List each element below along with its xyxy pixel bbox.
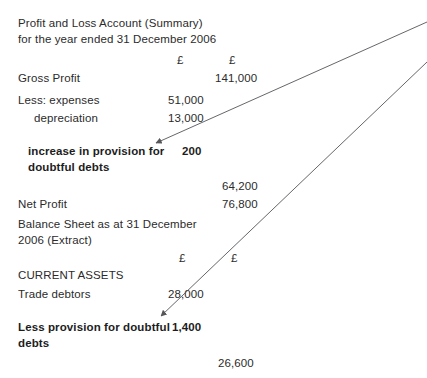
bs-row-value-net-debtors-col2: 26,600	[218, 357, 254, 370]
bs-row-label-trade-debtors: Trade debtors	[18, 288, 91, 301]
pl-title-line-1: Profit and Loss Account (Summary)	[18, 17, 203, 30]
worksheet-page: Profit and Loss Account (Summary) for th…	[0, 0, 427, 378]
pl-row-label-depreciation: depreciation	[34, 112, 98, 125]
pl-row-label-doubtful-debts: doubtful debts	[28, 161, 109, 174]
pl-row-value-depreciation-col1: 13,000	[168, 112, 204, 125]
bs-section-heading-current-assets: CURRENT ASSETS	[18, 269, 124, 282]
bs-row-value-trade-debtors-col1: 28,000	[168, 288, 204, 301]
bs-currency-header-col1: £	[179, 252, 186, 265]
bs-title-line-1: Balance Sheet as at 31 December	[18, 218, 197, 231]
pl-currency-header-col2: £	[229, 54, 236, 67]
bs-title-line-2: 2006 (Extract)	[18, 234, 92, 247]
pl-row-label-less-expenses: Less: expenses	[18, 94, 100, 107]
bs-row-value-less-provision-col1: 1,400	[172, 321, 201, 334]
bs-currency-header-col2: £	[231, 252, 238, 265]
pl-row-value-total-expenses-col2: 64,200	[222, 180, 258, 193]
pl-row-value-less-expenses-col1: 51,000	[168, 94, 204, 107]
bs-row-label-debts: debts	[18, 337, 49, 350]
pl-row-label-net-profit: Net Profit	[18, 198, 67, 211]
pl-row-label-increase-in-provision: increase in provision for	[28, 145, 164, 158]
pl-row-label-gross-profit: Gross Profit	[18, 72, 80, 85]
bs-row-label-less-provision: Less provision for doubtful	[18, 321, 170, 334]
pl-currency-header-col1: £	[177, 54, 184, 67]
pl-row-value-gross-profit-col2: 141,000	[215, 72, 257, 85]
pl-row-value-increase-in-provision-col1: 200	[182, 145, 202, 158]
pl-row-value-net-profit-col2: 76,800	[222, 198, 258, 211]
pl-title-line-2: for the year ended 31 December 2006	[18, 33, 216, 46]
